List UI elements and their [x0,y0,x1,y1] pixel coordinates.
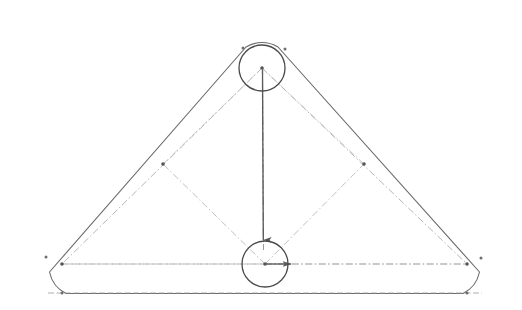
construction-triangle-group [62,68,467,264]
node-outline-apex-left [242,47,245,50]
node-bottom-hole-center [263,262,267,266]
node-outline-apex-right [284,48,287,51]
plate-outline-group [50,43,480,294]
technical-drawing-svg [0,0,522,310]
spur-left-midpoint [163,68,262,164]
node-right-midpoint [362,162,366,166]
node-left-midpoint [161,162,165,166]
spur-right-midpoint [262,68,364,164]
center-rays-group [62,164,467,264]
vertical-dimension-arrow [263,70,264,240]
rounded-triangle-outline [50,43,480,294]
node-bottom-left-vertex [60,262,64,266]
node-outline-left-corner [45,256,48,259]
node-outline-right-corner [480,257,483,260]
dimension-arrows-group [263,70,292,264]
node-outline-bottom-right [466,292,469,295]
node-top-vertex [260,66,264,70]
ray-to-left-midpoint [163,164,265,264]
node-bottom-right-vertex [465,262,469,266]
technical-drawing-canvas: Rounded Triangular Plate Geometry Layout… [0,0,522,310]
node-outline-bottom-left [61,292,64,295]
ray-to-right-midpoint [265,164,364,264]
